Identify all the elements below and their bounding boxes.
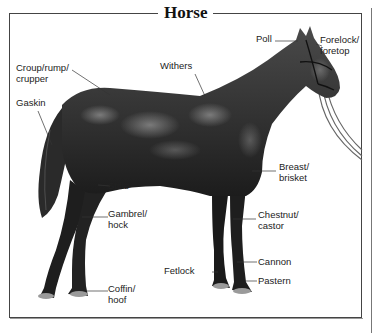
front-leg-near <box>230 188 252 292</box>
label-pastern: Pastern <box>258 276 291 287</box>
label-stifle: Stifle <box>108 181 129 192</box>
label-fetlock: Fetlock <box>164 266 195 277</box>
front-leg-far <box>212 190 230 288</box>
label-breast: Breast/ brisket <box>279 162 309 183</box>
hooves <box>38 283 251 299</box>
label-forelock: Forelock/ foretop <box>320 35 359 56</box>
label-cannon: Cannon <box>258 257 291 268</box>
label-gambrel: Gambrel/ hock <box>108 209 147 230</box>
label-poll: Poll <box>256 34 272 45</box>
label-withers: Withers <box>160 61 192 72</box>
label-croup: Croup/rump/ crupper <box>16 63 69 84</box>
label-chestnut: Chestnut/ castor <box>258 210 299 231</box>
horse-illustration <box>0 0 375 333</box>
label-gaskin: Gaskin <box>16 98 46 109</box>
diagram-title: Horse <box>158 3 213 23</box>
label-coffin: Coffin/ hoof <box>108 284 135 305</box>
